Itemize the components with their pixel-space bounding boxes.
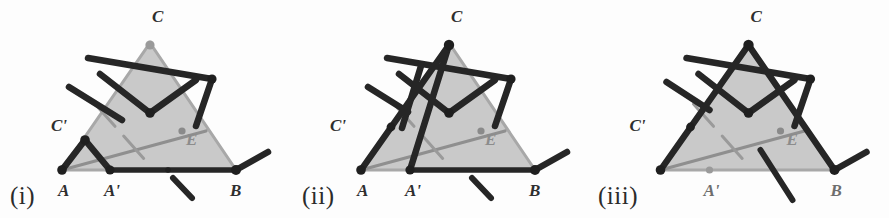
linkage-joint-upper-right xyxy=(806,74,815,83)
point-e-dot xyxy=(178,127,185,134)
label-e: E xyxy=(185,130,197,149)
caption-panel-ii: (ii) xyxy=(302,182,335,210)
label-e: E xyxy=(484,130,496,149)
linkage-joint-v-apex xyxy=(744,108,754,118)
linkage-joint-v-apex xyxy=(145,108,155,118)
linkage-stub-right-of-b xyxy=(236,152,268,170)
triangle-abc xyxy=(661,43,835,170)
caption-panel-iii: (iii) xyxy=(598,182,638,210)
linkage-figure: C C' E A A' B C C' E xyxy=(0,0,889,218)
caption-panel-i: (i) xyxy=(10,182,35,210)
label-e: E xyxy=(786,130,798,149)
joint-cprime xyxy=(686,123,695,132)
joint-b xyxy=(830,165,840,175)
triangle-abc xyxy=(361,43,535,170)
panel-ii: C C' E A A' B xyxy=(290,0,590,218)
label-b: B xyxy=(229,181,241,200)
label-cprime: C' xyxy=(630,116,646,135)
point-e-dot xyxy=(777,127,784,134)
joint-b xyxy=(530,165,540,175)
label-aprime: A' xyxy=(103,181,120,200)
joint-a xyxy=(656,165,666,175)
joint-b xyxy=(231,165,241,175)
linkage-stub-below-baseline xyxy=(173,178,192,198)
label-b: B xyxy=(830,181,842,200)
label-c: C xyxy=(152,7,164,26)
joint-aprime xyxy=(706,166,713,173)
linkage-joint-v-apex xyxy=(444,108,454,118)
joint-cprime xyxy=(387,123,396,132)
label-cprime: C' xyxy=(330,116,346,135)
panel-i: C C' E A A' B xyxy=(0,0,300,218)
label-cprime: C' xyxy=(51,116,67,135)
label-aprime: A' xyxy=(404,181,421,200)
joint-aprime xyxy=(405,165,414,174)
joint-c xyxy=(743,40,753,50)
linkage-stub-right-of-b xyxy=(535,152,567,170)
point-c-dot xyxy=(145,40,154,49)
triangle-abc xyxy=(62,43,236,170)
joint-a xyxy=(356,165,366,175)
joint-a xyxy=(57,165,67,175)
label-a: A xyxy=(57,181,69,200)
label-b: B xyxy=(528,181,540,200)
linkage-bar-right xyxy=(196,79,212,126)
joint-aprime xyxy=(105,165,114,174)
linkage-bar-right xyxy=(495,79,511,126)
label-c: C xyxy=(751,7,763,26)
linkage-stub-below-baseline xyxy=(472,178,491,198)
linkage-stub-right-of-b xyxy=(835,152,867,170)
label-c: C xyxy=(451,7,463,26)
joint-cprime xyxy=(80,135,90,145)
label-a: A xyxy=(356,181,368,200)
linkage-joint-upper-right xyxy=(506,74,515,83)
point-e-dot xyxy=(477,127,484,134)
label-aprime: A' xyxy=(703,181,720,200)
joint-baseline-mid xyxy=(165,167,171,173)
joint-c xyxy=(444,40,454,50)
linkage-joint-upper-right xyxy=(207,74,216,83)
